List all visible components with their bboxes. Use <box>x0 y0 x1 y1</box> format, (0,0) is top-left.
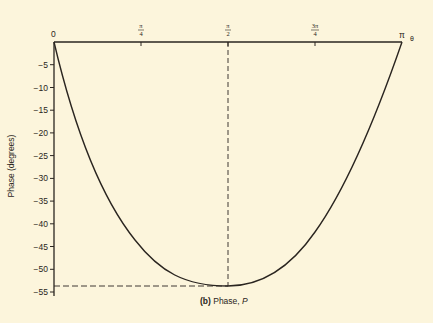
svg-text:−10: −10 <box>34 83 49 93</box>
svg-text:−20: −20 <box>34 128 49 138</box>
x-tick-pi4: π 4 <box>138 22 144 37</box>
phase-chart: 0 π 4 π 2 3π 4 π θ −5 −10 −15 −20 −25 −3… <box>0 0 433 323</box>
caption-variable: P <box>242 296 248 306</box>
svg-text:π: π <box>139 22 143 29</box>
svg-text:−5: −5 <box>38 60 48 70</box>
caption-label: (b) <box>200 296 211 306</box>
svg-text:2: 2 <box>226 30 229 37</box>
svg-text:−15: −15 <box>34 105 49 115</box>
svg-text:−40: −40 <box>34 219 49 229</box>
y-tick-labels: −5 −10 −15 −20 −25 −30 −35 −40 −45 −50 −… <box>34 60 49 297</box>
svg-text:π: π <box>226 22 230 29</box>
svg-text:−50: −50 <box>34 264 49 274</box>
svg-text:4: 4 <box>313 30 317 37</box>
svg-text:4: 4 <box>139 30 143 37</box>
x-tick-pi: π <box>399 30 405 40</box>
x-tick-pi2: π 2 <box>225 22 231 37</box>
svg-text:−45: −45 <box>34 242 49 252</box>
x-axis-label-theta: θ <box>410 35 414 42</box>
caption-text: Phase, <box>211 296 242 306</box>
figure-caption: (b) Phase, P <box>200 296 248 306</box>
svg-text:−35: −35 <box>34 196 49 206</box>
x-tick-3pi4: 3π 4 <box>311 22 319 37</box>
y-axis-label: Phase (degrees) <box>6 134 16 197</box>
svg-text:3π: 3π <box>312 22 319 29</box>
svg-text:−30: −30 <box>34 173 49 183</box>
svg-text:−55: −55 <box>34 287 49 297</box>
x-tick-0: 0 <box>51 29 56 39</box>
svg-text:−25: −25 <box>34 151 49 161</box>
